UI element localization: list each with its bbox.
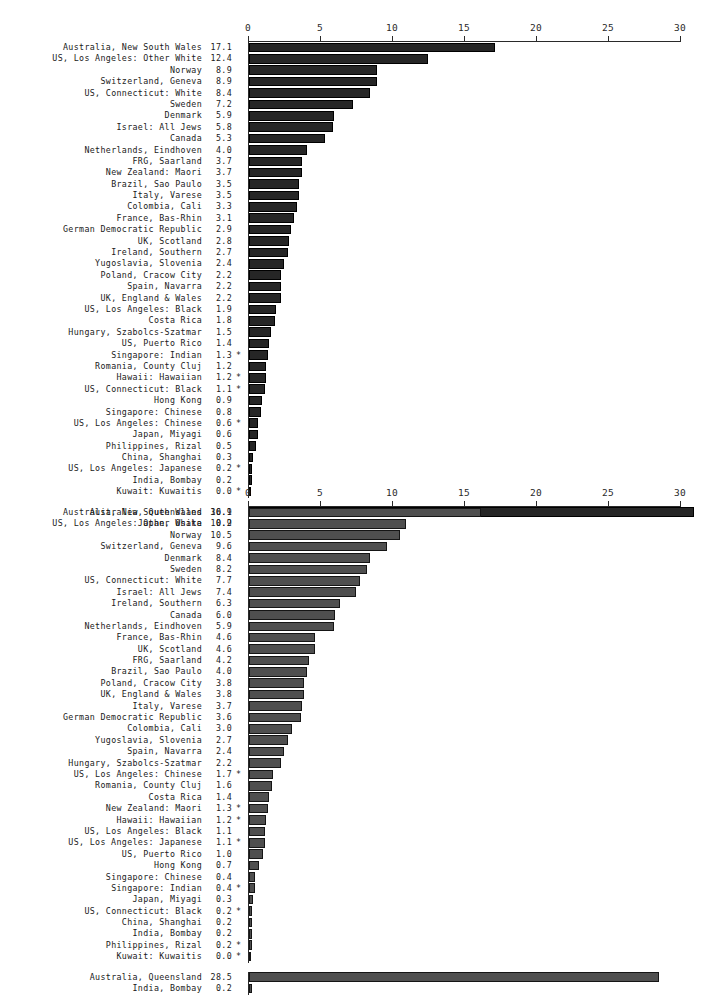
y-axis-baseline-extra [248,972,249,995]
row-bar [249,508,481,518]
x-axis-tick-label: 15 [458,23,470,33]
row-bar [249,667,307,677]
chart-row: China, Shanghai0.2 [0,917,725,928]
row-bar [249,918,252,928]
row-category-label: Denmark [0,553,202,564]
chart-row: Denmark5.9 [0,110,725,121]
row-value-label: 10.9 [204,518,232,529]
row-value-label: 3.8 [204,689,232,700]
chart-bottom-x-axis: 051015202530 [0,489,725,507]
chart-top-x-axis: 051015202530 [0,24,725,42]
chart-row: Costa Rica1.4 [0,792,725,803]
row-value-label: 3.8 [204,678,232,689]
row-value-label: 4.0 [204,666,232,677]
chart-row: India, Bombay0.2 [0,928,725,939]
row-bar [249,622,334,632]
row-category-label: Italy, Varese [0,701,202,712]
row-category-label: FRG, Saarland [0,655,202,666]
row-category-label: Colombia, Cali [0,723,202,734]
row-bar [249,701,302,711]
row-value-label: 1.9 [204,304,232,315]
chart-row: Philippines, Rizal0.5 [0,441,725,452]
chart-row: Costa Rica1.8 [0,315,725,326]
chart-row: Philippines, Rizal0.2* [0,940,725,951]
row-category-label: Singapore: Indian [0,350,202,361]
row-category-label: China, Shanghai [0,452,202,463]
row-bar [249,656,309,666]
row-category-label: German Democratic Republic [0,712,202,723]
row-category-label: Romania, County Cluj [0,780,202,791]
row-value-label: 7.7 [204,575,232,586]
row-value-label: 0.2 [204,928,232,939]
chart-row: Norway8.9 [0,65,725,76]
row-value-label: 1.3 [204,350,232,361]
row-value-label: 0.2 [204,940,232,951]
row-value-label: 2.7 [204,735,232,746]
chart-row: Netherlands, Eindhoven5.9 [0,621,725,632]
chart-row: Singapore: Indian1.3* [0,350,725,361]
row-bar [249,327,271,337]
chart-row: Sweden8.2 [0,564,725,575]
row-bar [249,644,315,654]
chart-row: Switzerland, Geneva8.9 [0,76,725,87]
chart-row: Hong Kong0.9 [0,395,725,406]
chart-row: US, Los Angeles: Black1.1 [0,826,725,837]
row-bar [249,838,265,848]
row-category-label: US, Los Angeles: Japanese [0,463,202,474]
row-footnote-asterisk: * [236,940,244,951]
row-category-label: Italy, Varese [0,190,202,201]
row-bar [249,441,256,451]
row-category-label: Spain, Navarra [0,281,202,292]
row-category-label: New Zealand: Maori [0,167,202,178]
row-value-label: 8.9 [204,65,232,76]
chart-row: Colombia, Cali3.3 [0,201,725,212]
chart-row: UK, Scotland2.8 [0,236,725,247]
chart-row: Brazil, Sao Paulo3.5 [0,179,725,190]
row-value-label: 6.3 [204,598,232,609]
x-axis-tick-label: 20 [530,488,542,498]
row-category-label: UK, Scotland [0,644,202,655]
row-value-label: 3.6 [204,712,232,723]
x-axis-tick-label: 10 [386,23,398,33]
row-value-label: 12.4 [204,53,232,64]
row-footnote-asterisk: * [236,906,244,917]
row-category-label: India, Bombay [0,475,202,486]
row-value-label: 0.8 [204,407,232,418]
row-bar [249,100,353,110]
chart-row: Romania, County Cluj1.6 [0,780,725,791]
row-bar [249,895,253,905]
row-bar [249,984,252,994]
chart-row: Sweden7.2 [0,99,725,110]
row-bar [249,453,253,463]
row-value-label: 16.1 [204,507,232,518]
chart-row: India, Bombay0.2 [0,475,725,486]
row-category-label: Sweden [0,564,202,575]
row-footnote-asterisk: * [236,883,244,894]
row-value-label: 3.0 [204,723,232,734]
row-category-label: Japan, Miyagi [0,429,202,440]
row-value-label: 3.5 [204,190,232,201]
row-bar [249,282,281,292]
row-category-label: US, Los Angeles: Japanese [0,837,202,848]
row-category-label: US, Los Angeles: Chinese [0,418,202,429]
row-value-label: 8.9 [204,76,232,87]
row-category-label: Singapore: Indian [0,883,202,894]
row-category-label: France, Bas-Rhin [0,632,202,643]
row-category-label: Philippines, Rizal [0,441,202,452]
x-axis-tick-label: 10 [386,488,398,498]
row-category-label: Denmark [0,110,202,121]
row-value-label: 3.7 [204,701,232,712]
row-value-label: 28.5 [204,972,232,983]
row-bar [249,248,288,258]
row-category-label: Hungary, Szabolcs-Szatmar [0,327,202,338]
row-value-label: 17.1 [204,42,232,53]
row-value-label: 0.0 [204,951,232,962]
row-category-label: Yugoslavia, Slovenia [0,258,202,269]
chart-row: FRG, Saarland3.7 [0,156,725,167]
row-bar [249,610,335,620]
chart-row: US, Connecticut: White7.7 [0,575,725,586]
chart-bottom: 051015202530 Australia, New South Wales1… [0,489,725,994]
row-category-label: UK, Scotland [0,236,202,247]
row-category-label: Romania, County Cluj [0,361,202,372]
row-footnote-asterisk: * [236,769,244,780]
